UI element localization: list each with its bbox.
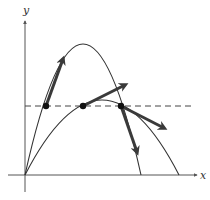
shallow-ascending-velocity-arrow [83, 85, 125, 106]
x-axis-label: x [200, 169, 207, 182]
trajectory-diagram: y x [0, 0, 210, 200]
y-axis-label: y [22, 4, 30, 17]
steep-ascending-velocity-arrow [46, 59, 63, 106]
intersection-descending-point [118, 103, 124, 109]
steep-ascending-point [43, 103, 49, 109]
shallow-ascending-point [80, 103, 86, 109]
shallow-trajectory-curve [25, 100, 179, 175]
